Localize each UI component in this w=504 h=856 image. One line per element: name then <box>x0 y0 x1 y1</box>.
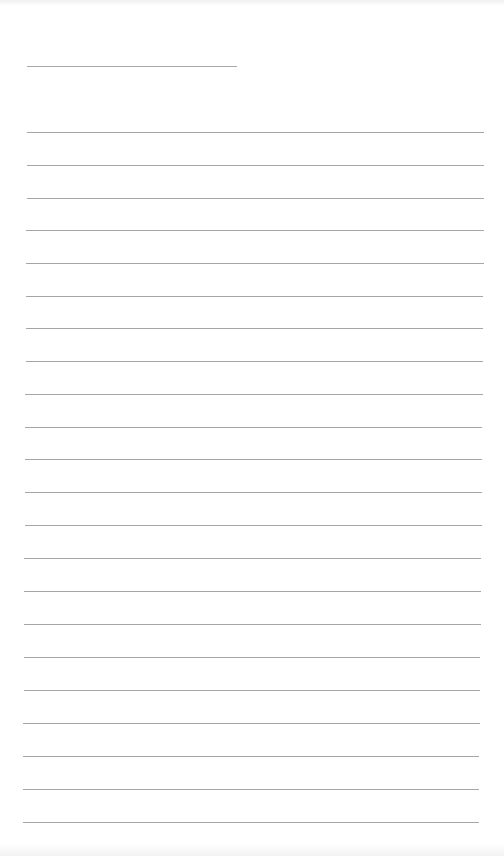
ruled-line <box>24 690 480 691</box>
ruled-line <box>25 459 482 460</box>
ruled-line <box>23 789 479 790</box>
ruled-line <box>26 361 483 362</box>
page-top-edge <box>0 0 504 6</box>
ruled-line <box>26 263 484 264</box>
page-bottom-edge <box>0 844 504 856</box>
name-line <box>27 66 237 67</box>
ruled-line <box>23 756 479 757</box>
ruled-line <box>27 165 484 166</box>
ruled-line <box>27 132 484 133</box>
ruled-line <box>23 822 479 823</box>
ruled-line <box>24 591 481 592</box>
ruled-line <box>26 328 483 329</box>
ruled-line <box>24 558 481 559</box>
ruled-line <box>24 624 481 625</box>
ruled-line <box>25 525 482 526</box>
ruled-line <box>26 296 483 297</box>
ruled-line <box>26 230 484 231</box>
ruled-line <box>23 723 480 724</box>
ruled-line <box>25 394 483 395</box>
ruled-line <box>24 657 480 658</box>
ruled-line <box>25 492 482 493</box>
ruled-line <box>25 427 482 428</box>
ruled-line <box>27 198 484 199</box>
